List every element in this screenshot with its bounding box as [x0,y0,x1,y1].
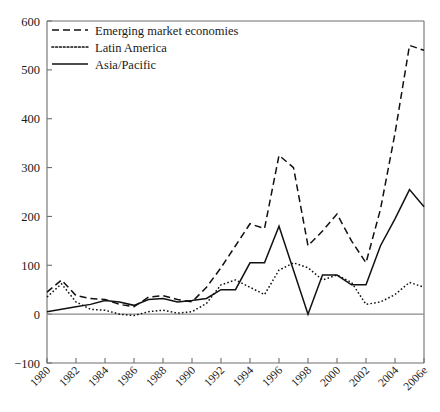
x-tick-label: 2004 [376,364,401,389]
series-line-asia-pacific [47,190,424,315]
series-line-emerging-market-economies [47,45,424,306]
plot-axes [47,21,424,363]
x-tick-label: 1996 [260,364,285,389]
x-tick-label: 1992 [202,364,227,389]
y-tick-label: 500 [21,63,40,77]
legend-label: Latin America [95,41,167,55]
x-tick-label: 2000 [318,364,343,389]
y-tick-label: 0 [34,308,40,322]
y-tick-label: 400 [21,112,40,126]
x-tick-label: 1994 [231,364,256,389]
x-tick-label: 1986 [115,364,140,389]
legend-label: Emerging market economies [95,24,239,38]
x-tick-label: 1990 [173,364,198,389]
x-tick-label: 1982 [57,364,82,389]
y-tick-label: 100 [21,259,40,273]
x-tick-label: 1984 [86,364,111,389]
x-tick-label: 2006e [401,364,429,392]
x-tick-label: 1988 [144,364,169,389]
y-tick-label: 200 [21,210,40,224]
y-tick-label: −100 [14,357,40,371]
y-tick-label: 300 [21,161,40,175]
x-tick-label: 2002 [347,364,372,389]
x-tick-label: 1998 [289,364,314,389]
legend-label: Asia/Pacific [95,58,157,72]
chart-container: −100010020030040050060019801982198419861… [0,0,440,412]
y-tick-label: 600 [21,15,40,29]
line-chart: −100010020030040050060019801982198419861… [0,0,440,412]
